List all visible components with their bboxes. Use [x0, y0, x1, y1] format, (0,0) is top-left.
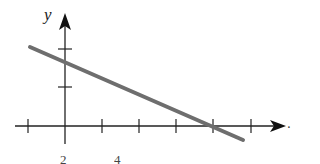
x-axis-trailing-mark: .: [287, 117, 291, 131]
x-tick-label-4: 4: [114, 153, 121, 164]
x-tick-label-2: 2: [60, 153, 67, 164]
y-axis-label: y: [44, 5, 52, 25]
